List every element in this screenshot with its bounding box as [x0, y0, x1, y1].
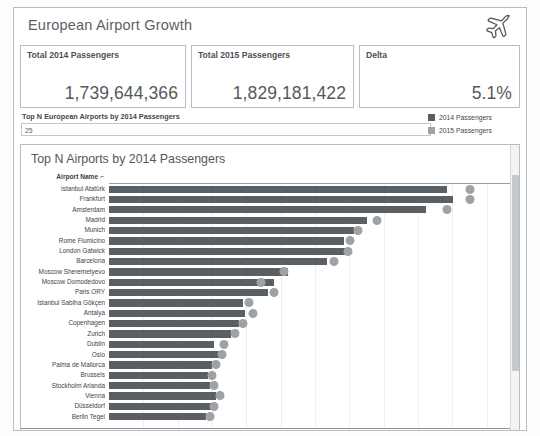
bar-2014[interactable]	[109, 330, 231, 337]
marker-2015[interactable]	[238, 319, 247, 328]
legend-item-2014[interactable]: 2014 Passengers	[428, 112, 520, 123]
bar-2014[interactable]	[109, 279, 274, 286]
marker-2015[interactable]	[210, 381, 219, 390]
bar-2014[interactable]	[109, 351, 220, 358]
bar-row[interactable]: Paris ORY	[109, 287, 520, 297]
marker-2015[interactable]	[230, 329, 239, 338]
bar-2014[interactable]	[109, 392, 216, 399]
bar-row[interactable]: Munich	[109, 225, 520, 235]
bar-row-label: Barcelona	[21, 256, 105, 266]
bar-2014[interactable]	[109, 258, 327, 265]
marker-2015[interactable]	[212, 360, 221, 369]
top-n-filter-input[interactable]	[21, 123, 431, 136]
bar-row[interactable]: Madrid	[109, 215, 520, 225]
bar-row[interactable]: Istanbul Sabiha Gökçen	[109, 298, 520, 308]
bar-row-label: Madrid	[21, 215, 105, 225]
bar-row-label: Moscow Sheremetyevo	[21, 267, 105, 277]
marker-2015[interactable]	[218, 350, 227, 359]
bar-2014[interactable]	[109, 299, 243, 306]
bar-row[interactable]: Antalya	[109, 308, 520, 318]
bar-2014[interactable]	[109, 268, 288, 275]
marker-2015[interactable]	[442, 205, 451, 214]
bar-row[interactable]: Zurich	[109, 329, 520, 339]
bar-2014[interactable]	[109, 237, 344, 244]
bar-row-label: Antalya	[21, 308, 105, 318]
bar-row[interactable]: Amsterdam	[109, 205, 520, 215]
bar-row[interactable]: Istanbul Atatürk	[109, 184, 520, 194]
marker-2015[interactable]	[216, 391, 225, 400]
bar-row-label: Palma de Mallorca	[21, 360, 105, 370]
bar-row[interactable]: Rome Fiumicino	[109, 236, 520, 246]
kpi-card-delta: Delta 5.1%	[359, 45, 520, 108]
bar-2014[interactable]	[109, 248, 346, 255]
bar-2014[interactable]	[109, 227, 354, 234]
dashboard-page: European Airport Growth Total 2014 Passe…	[0, 0, 540, 436]
marker-2015[interactable]	[465, 185, 474, 194]
marker-2015[interactable]	[220, 340, 229, 349]
marker-2015[interactable]	[346, 236, 355, 245]
bar-2014[interactable]	[109, 382, 210, 389]
marker-2015[interactable]	[208, 371, 217, 380]
bar-row-label: Düsseldorf	[21, 401, 105, 411]
kpi-label: Delta	[366, 50, 387, 60]
bar-2014[interactable]	[109, 413, 206, 420]
bar-row[interactable]: Dublin	[109, 339, 520, 349]
marker-2015[interactable]	[249, 309, 258, 318]
bar-row[interactable]: Brussels	[109, 370, 520, 380]
airplane-icon	[480, 12, 514, 40]
marker-2015[interactable]	[372, 216, 381, 225]
bar-row[interactable]: Palma de Mallorca	[109, 360, 520, 370]
bar-row-label: Amsterdam	[21, 205, 105, 215]
bar-2014[interactable]	[109, 310, 245, 317]
bar-row[interactable]: Moscow Sheremetyevo	[109, 267, 520, 277]
bar-2014[interactable]	[109, 186, 447, 193]
bar-row-label: London Gatwick	[21, 246, 105, 256]
chart-scrollbar-thumb[interactable]	[512, 175, 519, 371]
legend-item-2015[interactable]: 2015 Passengers	[428, 125, 520, 136]
bar-row[interactable]: Oslo	[109, 350, 520, 360]
bar-2014[interactable]	[109, 217, 367, 224]
bar-2014[interactable]	[109, 361, 212, 368]
bar-row-label: Stockholm Arlanda	[21, 381, 105, 391]
bar-row[interactable]: Barcelona	[109, 256, 520, 266]
bar-2014[interactable]	[109, 196, 453, 203]
plot-area: Istanbul AtatürkFrankfurtAmsterdamMadrid…	[109, 184, 520, 431]
kpi-label: Total 2014 Passengers	[27, 50, 119, 60]
sort-filter-icon[interactable]: ⌐	[100, 173, 103, 180]
chart-panel: Top N Airports by 2014 Passengers Airpor…	[20, 144, 520, 431]
bar-row[interactable]: London Gatwick	[109, 246, 520, 256]
marker-2015[interactable]	[269, 288, 278, 297]
kpi-card-total-2015: Total 2015 Passengers 1,829,181,422	[191, 45, 354, 108]
marker-2015[interactable]	[205, 412, 214, 421]
legend-swatch-2014	[428, 114, 435, 121]
legend-swatch-2015	[428, 127, 435, 134]
bar-2014[interactable]	[109, 206, 426, 213]
kpi-label: Total 2015 Passengers	[198, 50, 290, 60]
marker-2015[interactable]	[343, 247, 352, 256]
bar-row-label: Istanbul Sabiha Gökçen	[21, 298, 105, 308]
bar-row[interactable]: Vienna	[109, 391, 520, 401]
bar-2014[interactable]	[109, 403, 214, 410]
chart-scrollbar[interactable]	[510, 145, 519, 431]
bar-row-label: Frankfurt	[21, 194, 105, 204]
marker-2015[interactable]	[210, 402, 219, 411]
bar-row[interactable]: Frankfurt	[109, 194, 520, 204]
bar-row[interactable]: Moscow Domodedovo	[109, 277, 520, 287]
bar-row[interactable]: Copenhagen	[109, 318, 520, 328]
bar-row-label: Rome Fiumicino	[21, 236, 105, 246]
bar-2014[interactable]	[109, 372, 208, 379]
bar-row[interactable]: Düsseldorf	[109, 401, 520, 411]
bar-2014[interactable]	[109, 320, 239, 327]
dashboard-frame: European Airport Growth Total 2014 Passe…	[13, 7, 527, 431]
marker-2015[interactable]	[245, 298, 254, 307]
bar-row[interactable]: Stockholm Arlanda	[109, 381, 520, 391]
marker-2015[interactable]	[280, 267, 289, 276]
filter-strip: Top N European Airports by 2014 Passenge…	[20, 112, 520, 142]
marker-2015[interactable]	[354, 226, 363, 235]
bar-2014[interactable]	[109, 289, 268, 296]
bar-row[interactable]: Berlin Tegel	[109, 412, 520, 422]
bar-2014[interactable]	[109, 341, 214, 348]
marker-2015[interactable]	[465, 195, 474, 204]
marker-2015[interactable]	[257, 278, 266, 287]
marker-2015[interactable]	[329, 257, 338, 266]
